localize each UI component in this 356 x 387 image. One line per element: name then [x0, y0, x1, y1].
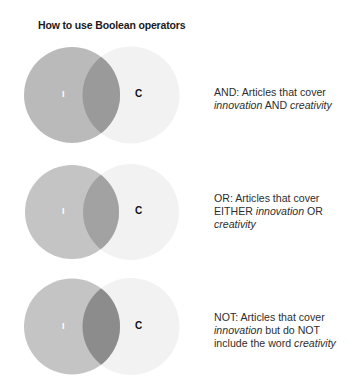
desc-text: EITHER	[214, 205, 256, 217]
description-and: AND: Articles that cover innovation AND …	[214, 86, 354, 112]
desc-line: OR: Articles that cover	[214, 192, 319, 204]
description-or: OR: Articles that cover EITHER innovatio…	[214, 192, 354, 231]
diagram-title: How to use Boolean operators	[38, 19, 186, 31]
desc-text: include the word	[214, 337, 294, 349]
circle-label-creativity: C	[135, 88, 142, 99]
desc-line: AND: Articles that cover	[214, 86, 326, 98]
venn-circles	[0, 45, 200, 155]
venn-diagram-and: I C	[0, 45, 200, 155]
circle-label-creativity: C	[135, 205, 142, 216]
description-not: NOT: Articles that cover innovation but …	[214, 311, 354, 350]
circle-label-innovation: I	[62, 206, 65, 216]
venn-circles	[0, 278, 200, 387]
desc-emphasis: innovation	[214, 99, 262, 111]
desc-emphasis: innovation	[256, 205, 304, 217]
desc-emphasis: creativity	[214, 218, 256, 230]
desc-text: but do NOT	[262, 324, 320, 336]
venn-diagram-not: I C	[0, 278, 200, 387]
desc-emphasis: innovation	[214, 324, 262, 336]
circle-label-innovation: I	[62, 321, 65, 331]
circle-label-creativity: C	[135, 320, 142, 331]
venn-circles	[0, 164, 200, 274]
desc-emphasis: creativity	[294, 337, 336, 349]
venn-diagram-or: I C	[0, 164, 200, 274]
desc-text: OR	[304, 205, 323, 217]
desc-emphasis: creativity	[290, 99, 332, 111]
desc-line: NOT: Articles that cover	[214, 311, 325, 323]
circle-label-innovation: I	[62, 89, 65, 99]
desc-text: AND	[262, 99, 290, 111]
